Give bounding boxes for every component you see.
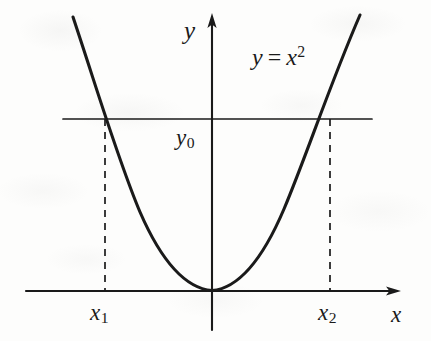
- curve-equation-label: y=x2: [252, 44, 305, 69]
- x1-subscript: 1: [101, 309, 109, 326]
- equation-rhs-base: x: [286, 44, 297, 70]
- x2-base: x: [318, 300, 328, 325]
- equation-operator: =: [268, 44, 282, 70]
- equation-rhs-exponent: 2: [297, 43, 305, 60]
- y0-label: y0: [176, 126, 195, 151]
- x2-label: x2: [318, 301, 337, 326]
- y0-subscript: 0: [187, 134, 195, 151]
- y-axis: [207, 13, 216, 330]
- x1-label: x1: [90, 301, 109, 326]
- equation-lhs: y: [252, 44, 263, 70]
- y-axis-label: y: [184, 18, 195, 43]
- parabola-figure: y y=x2 y0 x1 x2 x: [0, 0, 431, 341]
- x-axis-label: x: [391, 303, 401, 326]
- plot-canvas: [0, 0, 431, 341]
- x1-base: x: [90, 300, 100, 325]
- y0-base: y: [176, 125, 186, 150]
- x2-subscript: 2: [329, 309, 337, 326]
- parabola-curve: [73, 15, 360, 291]
